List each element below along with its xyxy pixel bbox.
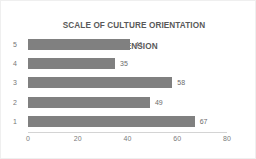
bar <box>28 77 172 88</box>
bar-row: 67 <box>28 116 227 127</box>
bar-value-label: 58 <box>177 79 185 86</box>
value-tick-label: 80 <box>223 135 231 142</box>
value-tick-label: 60 <box>173 135 181 142</box>
value-axis-line <box>28 132 227 133</box>
bar-value-label: 49 <box>155 99 163 106</box>
bar <box>28 116 195 127</box>
bar-row: 41 <box>28 39 227 50</box>
value-axis: 0 20 40 60 80 <box>28 135 227 149</box>
plot-area: 41 35 58 49 67 <box>28 35 227 131</box>
bar <box>28 58 115 69</box>
category-tick-label: 4 <box>1 58 23 69</box>
bar-value-label: 67 <box>200 118 208 125</box>
value-tick-label: 0 <box>26 135 30 142</box>
value-tick-label: 40 <box>124 135 132 142</box>
category-axis: 5 4 3 2 1 <box>1 35 23 131</box>
bar-series: 41 35 58 49 67 <box>28 35 227 131</box>
bar <box>28 39 130 50</box>
category-tick-label: 2 <box>1 97 23 108</box>
chart-container: SCALE OF CULTURE ORIENTATION DIMENSION 5… <box>0 0 256 159</box>
bar-value-label: 35 <box>120 60 128 67</box>
category-tick-label: 1 <box>1 116 23 127</box>
value-tick-label: 20 <box>74 135 82 142</box>
category-tick-label: 5 <box>1 39 23 50</box>
category-tick-label: 3 <box>1 77 23 88</box>
bar-row: 58 <box>28 77 227 88</box>
bar <box>28 97 150 108</box>
chart-title-line-1: SCALE OF CULTURE ORIENTATION <box>63 21 205 30</box>
bar-row: 49 <box>28 97 227 108</box>
bar-row: 35 <box>28 58 227 69</box>
bar-value-label: 41 <box>135 41 143 48</box>
